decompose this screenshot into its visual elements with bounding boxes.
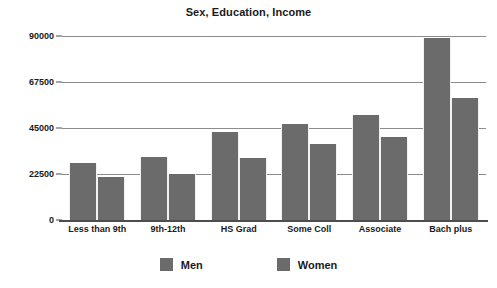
gridline <box>62 36 486 37</box>
bar <box>239 158 267 220</box>
bar <box>69 163 97 220</box>
y-axis-tick-label: 0 <box>0 215 54 225</box>
y-axis-tick-label: 45000 <box>0 123 54 133</box>
y-axis-tick-label: 22500 <box>0 169 54 179</box>
bar <box>451 98 479 220</box>
bar <box>309 144 337 220</box>
bar <box>140 157 168 220</box>
legend-item: Women <box>277 258 338 271</box>
bar <box>281 124 309 220</box>
chart-title: Sex, Education, Income <box>0 6 497 18</box>
legend-swatch-icon <box>160 258 173 271</box>
bar <box>352 115 380 220</box>
x-axis-line <box>59 220 488 222</box>
legend-swatch-icon <box>277 258 290 271</box>
x-axis-tick-label: Associate <box>359 224 402 234</box>
bar <box>97 177 125 220</box>
chart-legend: MenWomen <box>0 258 497 271</box>
bar <box>423 38 451 220</box>
x-axis-tick-label: Some Coll <box>287 224 331 234</box>
x-axis-tick-label: HS Grad <box>221 224 257 234</box>
bar <box>211 132 239 220</box>
bar <box>168 174 196 220</box>
legend-label: Women <box>298 259 338 271</box>
x-axis-tick-label: Bach plus <box>429 224 472 234</box>
y-axis-tick-labels: 022500450006750090000 <box>0 36 57 220</box>
x-axis-tick-label: 9th-12th <box>150 224 185 234</box>
legend-label: Men <box>181 259 203 271</box>
y-axis-tick-label: 90000 <box>0 31 54 41</box>
y-axis-tick-label: 67500 <box>0 77 54 87</box>
bar <box>380 137 408 220</box>
legend-item: Men <box>160 258 203 271</box>
x-axis-tick-labels: Less than 9th9th-12thHS GradSome CollAss… <box>62 224 486 240</box>
plot-area <box>62 36 486 220</box>
x-axis-tick-label: Less than 9th <box>68 224 126 234</box>
chart-figure: Sex, Education, Income 02250045000675009… <box>0 0 497 288</box>
